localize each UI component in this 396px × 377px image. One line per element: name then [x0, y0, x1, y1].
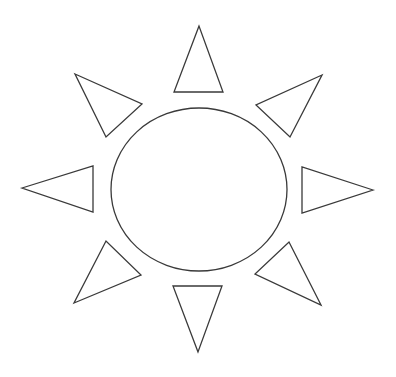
ray-bottom-right-triangle	[255, 242, 321, 305]
sun-body-circle	[111, 108, 287, 271]
sun-drawing	[0, 0, 396, 377]
ray-top-right-triangle	[256, 75, 322, 137]
ray-bottom-left-triangle	[74, 241, 141, 303]
ray-left-triangle	[22, 166, 93, 212]
ray-top-left-triangle	[75, 74, 142, 137]
sun-figure	[0, 0, 396, 377]
ray-right-triangle	[302, 167, 373, 213]
ray-top-triangle	[174, 26, 223, 92]
ray-bottom-triangle	[173, 286, 222, 352]
